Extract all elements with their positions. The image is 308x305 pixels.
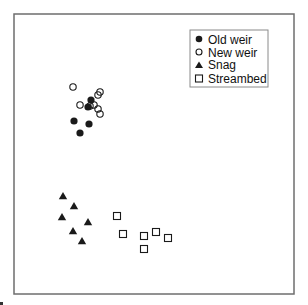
- legend-label: Streambed: [208, 72, 267, 86]
- legend-label: Snag: [208, 58, 236, 72]
- scatter-plot: Old weir New weir Snag Streambed: [0, 0, 308, 305]
- data-point-old-weir: [70, 117, 77, 124]
- legend-label: Old weir: [208, 33, 252, 47]
- legend: Old weir New weir Snag Streambed: [190, 30, 268, 87]
- filled-circle-icon: [196, 36, 203, 43]
- data-point-old-weir: [76, 129, 83, 136]
- data-point-old-weir: [85, 120, 92, 127]
